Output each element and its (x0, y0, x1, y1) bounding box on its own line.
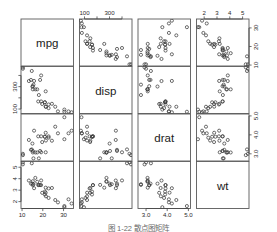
axis-x-drat-bottom: 3.04.05.0 (142, 209, 193, 219)
axis-y-disp-left: 100300 (11, 75, 21, 114)
scatter-panel-disp-vs-mpg (79, 19, 132, 66)
variable-name-label: disp (95, 85, 116, 97)
scatter-panel-disp-vs-drat (79, 114, 132, 161)
axis-tick-label: 4.0 (252, 130, 259, 139)
scatter-panel-drat-vs-disp (138, 66, 191, 114)
axis-tick-label: 3 (11, 188, 18, 192)
axis-tick-label: 10 (252, 61, 259, 68)
diagonal-panel-drat: drat (138, 114, 191, 161)
axis-tick-label: 100 (11, 103, 18, 114)
scatter-panel-disp-vs-wt (79, 161, 132, 209)
axis-tick-label: 300 (104, 9, 115, 16)
variable-name-label: drat (154, 132, 175, 144)
diagonal-panel-mpg: mpg (21, 19, 74, 66)
axis-tick-label: 10 (19, 211, 26, 218)
axis-tick-label: 3.0 (252, 149, 259, 158)
scatter-panel-drat-vs-wt (138, 161, 191, 209)
axis-tick-label: 30 (60, 211, 67, 218)
scatter-panel-mpg-vs-wt (21, 161, 74, 209)
axis-y-mpg-right: 102030 (249, 24, 259, 69)
variable-name-label: wt (216, 180, 229, 192)
scatter-panel-mpg-vs-disp (21, 66, 74, 114)
axis-tick-label: 2 (202, 9, 206, 16)
axis-tick-label: 5.0 (184, 211, 193, 218)
axis-tick-label: 30 (252, 24, 259, 31)
matrix-canvas: mpgdispdratwt1020301003003.04.05.0234510… (0, 0, 277, 232)
axis-x-wt-top: 2345 (202, 9, 244, 19)
figure-caption: 图 1-22 散点图矩阵 (0, 222, 277, 232)
axis-tick-label: 4.0 (163, 211, 172, 218)
diagonal-panel-disp: disp (80, 67, 133, 114)
axis-tick-label: 300 (11, 81, 18, 92)
variable-name-label: mpg (36, 37, 58, 49)
axis-tick-label: 5 (241, 9, 245, 16)
axis-tick-label: 3 (215, 9, 219, 16)
scatter-panel-mpg-vs-drat (21, 114, 74, 161)
axis-y-wt-left: 2345 (11, 165, 21, 203)
diagonal-panel-wt: wt (197, 162, 250, 209)
scatter-panel-wt-vs-mpg (196, 19, 249, 66)
axis-tick-label: 100 (79, 9, 90, 16)
scatter-panel-wt-vs-disp (196, 66, 249, 114)
axis-tick-label: 3.0 (142, 211, 151, 218)
axis-tick-label: 20 (39, 211, 46, 218)
scatterplot-matrix-figure: mpgdispdratwt1020301003003.04.05.0234510… (0, 0, 277, 232)
axis-tick-label: 4 (228, 9, 232, 16)
axis-y-drat-right: 3.04.05.0 (249, 111, 259, 158)
axis-tick-label: 5 (11, 165, 18, 169)
scatter-panel-drat-vs-mpg (138, 19, 191, 66)
axis-tick-label: 5.0 (252, 111, 259, 120)
axis-x-disp-top: 100300 (79, 9, 122, 19)
scatter-panel-wt-vs-drat (196, 114, 249, 161)
panel-frame (197, 19, 250, 66)
panel-frame (21, 162, 74, 209)
axis-tick-label: 20 (252, 42, 259, 49)
axis-x-mpg-bottom: 102030 (19, 209, 68, 219)
panel-frame (197, 114, 250, 161)
axis-tick-label: 4 (11, 176, 18, 180)
axis-tick-label: 2 (11, 199, 18, 203)
